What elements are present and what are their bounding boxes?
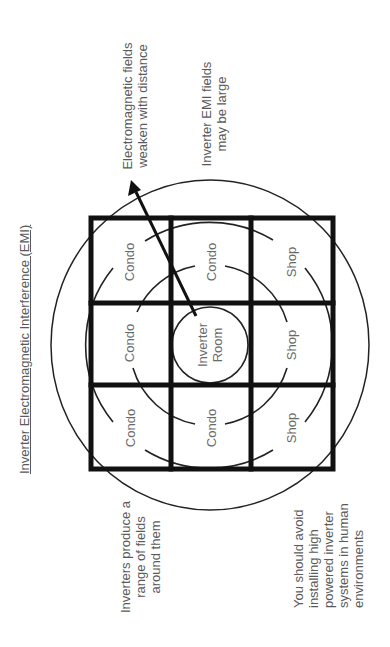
annotation-range-of-fields: Inverters produce a range of fields arou…: [118, 498, 163, 616]
arrowhead-icon: [128, 180, 141, 196]
annotation-line: powered inverter: [321, 490, 336, 608]
annotation-line: range of fields: [133, 498, 148, 616]
cell-label-condo-r0c1: Condo: [204, 243, 219, 281]
cell-label-condo-r2c0: Condo: [123, 409, 138, 447]
annotation-line: around them: [148, 498, 163, 616]
cell-label-inverter-room: Inverter Room: [195, 323, 225, 367]
cell-label-line: Room: [210, 323, 225, 367]
annotation-line: installing high: [306, 490, 321, 608]
cell-label-condo-r2c1: Condo: [204, 409, 219, 447]
annotation-avoid-installing: You should avoid installing high powered…: [291, 490, 366, 608]
diagram-title: Inverter Electromagnetic Interference (E…: [17, 206, 32, 474]
cell-label-shop-r1c2: Shop: [284, 330, 299, 360]
distance-arrow: [128, 180, 196, 316]
annotation-line: You should avoid: [291, 490, 306, 608]
annotation-fields-large: Inverter EMI fields may be large: [199, 56, 229, 172]
cell-label-condo-r0c0: Condo: [122, 243, 137, 281]
annotation-line: environments: [351, 490, 366, 608]
annotation-line: Inverters produce a: [118, 498, 133, 616]
annotation-line: Electromagnetic fields: [120, 36, 135, 176]
cell-label-shop-r2c2: Shop: [284, 413, 299, 443]
cell-label-line: Inverter: [195, 323, 210, 367]
annotation-line: may be large: [214, 56, 229, 172]
annotation-line: weaken with distance: [135, 36, 150, 176]
annotation-fields-weaken: Electromagnetic fields weaken with dista…: [120, 36, 150, 176]
cell-label-shop-r0c2: Shop: [284, 247, 299, 277]
annotation-line: systems in human: [336, 490, 351, 608]
annotation-line: Inverter EMI fields: [199, 56, 214, 172]
cell-label-condo-r1c0: Condo: [122, 324, 137, 362]
